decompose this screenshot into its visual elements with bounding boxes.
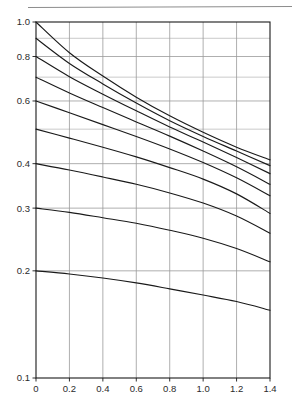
x-tick-label: 1.0 xyxy=(197,383,210,394)
x-tick-label: 0 xyxy=(33,383,38,394)
y-tick-label: 0.6 xyxy=(17,95,30,106)
y-tick-label: 0.1 xyxy=(17,372,30,383)
x-tick-label: 1.2 xyxy=(230,383,243,394)
y-tick-label: 1.0 xyxy=(17,16,30,27)
y-axis-tick-labels: 1.00.80.60.40.30.20.1 xyxy=(17,16,30,383)
y-tick-label: 0.8 xyxy=(17,51,30,62)
x-tick-label: 0.8 xyxy=(163,383,176,394)
y-tick-label: 0.4 xyxy=(17,158,30,169)
plot-background xyxy=(36,22,270,378)
figure-root: 00.20.40.60.81.01.21.4 1.00.80.60.40.30.… xyxy=(0,0,299,410)
y-tick-label: 0.2 xyxy=(17,265,30,276)
x-tick-label: 1.4 xyxy=(263,383,276,394)
x-axis-tick-labels: 00.20.40.60.81.01.21.4 xyxy=(33,383,276,394)
y-tick-label: 0.3 xyxy=(17,203,30,214)
x-tick-label: 0.4 xyxy=(96,383,109,394)
x-tick-label: 0.6 xyxy=(130,383,143,394)
x-tick-label: 0.2 xyxy=(63,383,76,394)
chart-plot: 00.20.40.60.81.01.21.4 1.00.80.60.40.30.… xyxy=(0,0,299,410)
